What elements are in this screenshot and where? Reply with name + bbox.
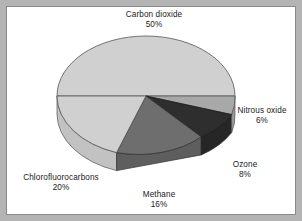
slice-label-ozone-name: Ozone [233,160,258,169]
slice-label-carbon-dioxide-name: Carbon dioxide [126,10,182,19]
slice-label-chlorofluorocarbons-value: 20% [6,183,117,193]
chart-panel: Carbon dioxide 50% Nitrous oxide 6% Ozon… [6,6,296,215]
slice-label-nitrous-oxide-value: 6% [219,116,296,126]
slice-label-methane-value: 16% [119,200,199,210]
slice-label-chlorofluorocarbons: Chlorofluorocarbons 20% [6,173,117,193]
slice-label-nitrous-oxide: Nitrous oxide 6% [219,106,296,126]
slice-label-methane-name: Methane [143,190,176,199]
slice-label-ozone-value: 8% [210,170,280,180]
screenshot-root: Carbon dioxide 50% Nitrous oxide 6% Ozon… [0,0,302,221]
slice-label-ozone: Ozone 8% [210,160,280,180]
slice-label-nitrous-oxide-name: Nitrous oxide [237,106,286,115]
slice-label-carbon-dioxide-value: 50% [99,20,209,30]
slice-label-carbon-dioxide: Carbon dioxide 50% [99,10,209,30]
slice-label-chlorofluorocarbons-name: Chlorofluorocarbons [23,173,99,182]
slice-label-methane: Methane 16% [119,190,199,210]
slice-top-carbon-dioxide [57,36,235,96]
pie-chart: Carbon dioxide 50% Nitrous oxide 6% Ozon… [7,7,295,214]
